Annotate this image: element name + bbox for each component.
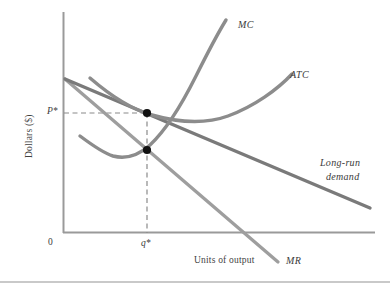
curve-label-long-run-demand-line1: Long-run xyxy=(320,158,360,169)
y-tick-label-p-star: P* xyxy=(47,107,58,117)
curve-label-long-run-demand-line2: demand xyxy=(326,172,359,183)
tangency-point-dot xyxy=(143,109,151,117)
x-tick-label-q-star: q* xyxy=(141,239,151,249)
long-run-demand-curve xyxy=(65,79,370,208)
origin-label: 0 xyxy=(48,238,53,248)
bottom-rule-divider xyxy=(0,281,390,283)
atc-curve xyxy=(90,74,292,122)
y-axis-title: Dollars ($) xyxy=(12,78,26,158)
curve-label-mr: MR xyxy=(286,256,301,267)
y-axis-title-text: Dollars ($) xyxy=(24,114,34,158)
x-axis-title: Units of output xyxy=(194,256,255,266)
curve-label-mc: MC xyxy=(238,20,254,31)
chart-plot-area xyxy=(0,0,390,290)
curve-label-atc: ATC xyxy=(290,70,309,81)
economics-chart: Dollars ($) P* q* 0 Units of output MC A… xyxy=(0,0,390,290)
mc-mr-intersection-dot xyxy=(143,146,151,154)
